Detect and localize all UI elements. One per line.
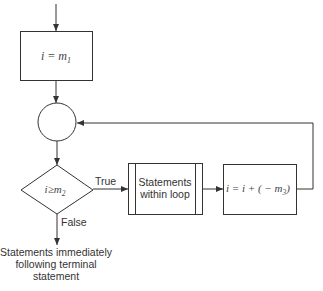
decision-label: i≥m <box>45 183 62 195</box>
junction-circle <box>38 103 76 141</box>
increment-suffix: ) <box>285 182 290 195</box>
decision-diamond: i≥m2 <box>21 165 93 214</box>
loop-body-line-1: Statements <box>138 176 191 188</box>
exit-statement-text: Statements immediately following termina… <box>0 246 113 282</box>
init-subscript: 1 <box>67 56 71 65</box>
increment-box: i = i + ( − m3) <box>224 165 297 215</box>
increment-label: i = i + ( − m <box>226 182 283 195</box>
false-label: False <box>61 216 87 228</box>
exit-line-1: Statements immediately <box>0 246 113 258</box>
decision-subscript: 2 <box>62 189 66 198</box>
loop-body-line-2: within loop <box>139 188 190 200</box>
init-label: i = m <box>41 49 67 63</box>
exit-line-3: statement <box>33 270 79 282</box>
init-box: i = m1 <box>21 32 93 81</box>
true-label: True <box>95 175 116 187</box>
svg-text:i = m1: i = m1 <box>41 49 71 65</box>
exit-line-2: following terminal <box>15 258 96 270</box>
flowchart-canvas: i = m1 i≥m2 True Statements within loop … <box>0 0 323 291</box>
loop-body-box: Statements within loop <box>129 164 203 215</box>
